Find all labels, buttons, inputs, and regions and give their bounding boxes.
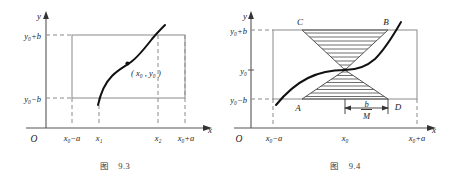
x-axis	[234, 125, 436, 131]
x-tick-label-x0minusa: x₀−a	[265, 133, 283, 143]
x-axis-label: x	[431, 125, 436, 135]
caption-number: 9.3	[118, 161, 130, 171]
figure-pair: y x O y₀+b y₀−b x₀−a x₁ x₂ x₀+a ( x₀ , y…	[0, 0, 461, 175]
b-over-m-measure: b M	[344, 99, 389, 121]
figure-9-3-caption: 图9.3	[0, 159, 230, 171]
point-marker	[125, 61, 129, 65]
origin-label: O	[236, 134, 243, 144]
region-rectangle	[72, 35, 185, 98]
y-tick-label-y0plusb: y₀+b	[230, 26, 247, 36]
x-tick-label-x0plusa: x₀+a	[408, 133, 426, 143]
vertex-label-C: C	[297, 17, 304, 27]
x-axis-label: x	[207, 125, 212, 135]
measure-numerator: b	[364, 99, 368, 109]
solution-curve	[98, 25, 165, 105]
x-tick-label-x0minusa: x₀−a	[63, 133, 81, 143]
y-axis-label: y	[36, 11, 41, 21]
hatch-lines-upper	[290, 33, 400, 69]
region-rectangle	[273, 30, 417, 99]
figure-9-3-canvas: y x O y₀+b y₀−b x₀−a x₁ x₂ x₀+a ( x₀ , y…	[0, 0, 230, 175]
x-tick-label-x2: x₂	[154, 133, 162, 143]
measure-denominator: M	[362, 111, 371, 121]
figure-9-4: b M C B A D y x O y₀+b y₀ y₀−b x₀−a x₀ x…	[230, 0, 461, 175]
y-axis	[43, 11, 49, 128]
figure-9-3: y x O y₀+b y₀−b x₀−a x₁ x₂ x₀+a ( x₀ , y…	[0, 0, 230, 175]
x-tick-label-x0: x₀	[341, 133, 349, 143]
vertical-dashed-guides	[72, 35, 185, 126]
vertex-label-D: D	[394, 102, 402, 112]
hatched-bowtie-region	[290, 30, 400, 99]
vertex-label-A: A	[294, 103, 301, 113]
x-tick-label-x0plusa: x₀+a	[177, 133, 195, 143]
y-axis-label: y	[242, 11, 247, 21]
hatch-lines-lower	[290, 72, 400, 97]
horizontal-dashed-guides	[46, 35, 72, 98]
y-tick-label-y0plusb: y₀+b	[23, 31, 41, 41]
y-tick-label-y0: y₀	[239, 66, 247, 76]
caption-label: 图	[330, 161, 340, 171]
caption-number: 9.4	[349, 161, 361, 171]
y-tick-label-y0minusb: y₀−b	[23, 94, 41, 104]
point-label: ( x₀ , y₀ )	[131, 68, 161, 78]
figure-9-4-canvas: b M C B A D y x O y₀+b y₀ y₀−b x₀−a x₀ x…	[230, 0, 461, 175]
figure-9-4-caption: 图9.4	[230, 159, 461, 171]
vertex-label-B: B	[383, 17, 389, 27]
x-axis	[26, 125, 212, 131]
x-tick-label-x1: x₁	[95, 133, 103, 143]
caption-label: 图	[100, 161, 110, 171]
origin-label: O	[31, 134, 38, 144]
horizontal-dashed-guides	[251, 30, 273, 99]
y-tick-label-y0minusb: y₀−b	[230, 95, 247, 105]
